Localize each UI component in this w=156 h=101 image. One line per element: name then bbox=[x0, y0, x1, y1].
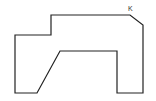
vertex-label-k: K bbox=[128, 5, 133, 12]
polygon-outline bbox=[15, 15, 143, 93]
diagram-canvas: K bbox=[0, 0, 156, 101]
